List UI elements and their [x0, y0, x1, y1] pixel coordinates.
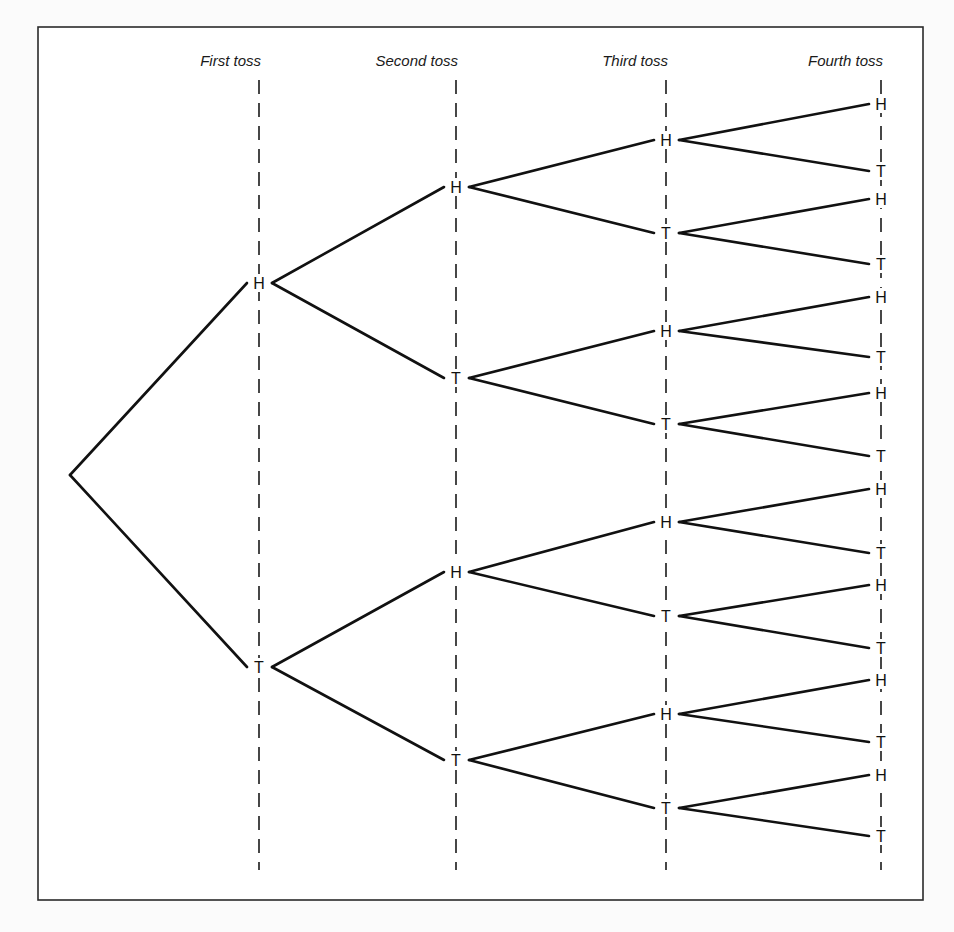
outcome-node-heads: H [875, 767, 887, 784]
outcome-node-heads: H [660, 323, 672, 340]
column-heading-fourth: Fourth toss [808, 52, 884, 69]
outcome-node-heads: H [450, 564, 462, 581]
outcome-node-heads: H [660, 514, 672, 531]
outcome-node-heads: H [253, 275, 265, 292]
outcome-node-heads: H [875, 481, 887, 498]
outcome-node-tails: T [661, 608, 671, 625]
outcome-node-tails: T [876, 349, 886, 366]
outcome-node-heads: H [875, 577, 887, 594]
outcome-node-tails: T [876, 640, 886, 657]
outcome-node-tails: T [451, 370, 461, 387]
outcome-node-tails: T [876, 734, 886, 751]
outcome-node-heads: H [450, 179, 462, 196]
outcome-node-heads: H [660, 706, 672, 723]
outcome-node-tails: T [451, 752, 461, 769]
outcome-node-heads: H [875, 672, 887, 689]
outcome-node-tails: T [254, 659, 264, 676]
column-heading-second: Second toss [375, 52, 458, 69]
outcome-node-tails: T [876, 448, 886, 465]
outcome-node-heads: H [875, 289, 887, 306]
outcome-node-tails: T [876, 828, 886, 845]
outcome-node-tails: T [661, 225, 671, 242]
outcome-node-tails: T [876, 256, 886, 273]
outcome-node-heads: H [875, 96, 887, 113]
column-heading-first: First toss [200, 52, 261, 69]
outcome-node-tails: T [661, 416, 671, 433]
outcome-node-tails: T [876, 545, 886, 562]
outcome-node-heads: H [660, 132, 672, 149]
outcome-node-tails: T [876, 163, 886, 180]
outcome-node-tails: T [661, 800, 671, 817]
column-heading-third: Third toss [602, 52, 668, 69]
outcome-node-heads: H [875, 385, 887, 402]
outcome-node-heads: H [875, 191, 887, 208]
coin-toss-tree-diagram: First tossSecond tossThird tossFourth to… [0, 0, 954, 932]
